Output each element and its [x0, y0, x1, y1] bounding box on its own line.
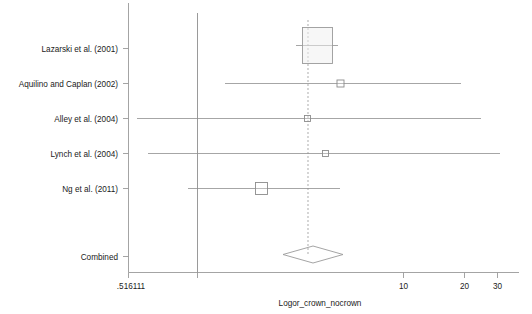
- study-row-lynch: [148, 151, 500, 157]
- effect-marker-alley: [305, 116, 311, 122]
- forest-plot: Lazarski et al. (2001) Aquilino and Capl…: [0, 0, 532, 314]
- study-label-aquilino: Aquilino and Caplan (2002): [19, 80, 119, 89]
- x-tick-label-0: .516111: [117, 282, 146, 291]
- x-tick-label-20: 20: [460, 282, 470, 291]
- effect-marker-lynch: [323, 151, 329, 157]
- effect-marker-aquilino: [337, 80, 344, 87]
- effect-marker-lazarski: [303, 28, 333, 64]
- study-row-aquilino: [225, 80, 461, 87]
- study-label-lazarski: Lazarski et al. (2001): [42, 45, 119, 54]
- x-axis-title: Logor_crown_nocrown: [279, 299, 362, 308]
- study-row-ng: [188, 183, 340, 195]
- x-tick-label-30: 30: [493, 282, 503, 291]
- study-label-lynch: Lynch et al. (2004): [50, 150, 118, 159]
- study-label-combined: Combined: [81, 253, 119, 262]
- study-row-lazarski: [296, 28, 338, 64]
- x-tick-label-10: 10: [399, 282, 409, 291]
- forest-plot-canvas: Lazarski et al. (2001) Aquilino and Capl…: [0, 0, 532, 314]
- study-label-alley: Alley et al. (2004): [54, 115, 118, 124]
- study-label-ng: Ng et al. (2011): [62, 185, 118, 194]
- effect-marker-ng: [256, 183, 268, 195]
- study-row-alley: [137, 116, 481, 122]
- combined-effect-diamond: [283, 246, 343, 263]
